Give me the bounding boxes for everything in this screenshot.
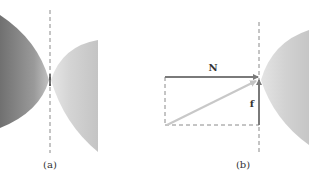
light-body-b: [261, 30, 309, 145]
panel-a: (a): [0, 10, 98, 170]
friction-force-label: f: [250, 98, 255, 109]
contact-force-diagram: (a) N f (b): [0, 0, 309, 183]
dark-body: [0, 15, 49, 128]
normal-force-label: N: [208, 62, 217, 73]
panel-b: N f (b): [165, 22, 309, 170]
resultant-force-arrow: [167, 81, 256, 125]
caption-b: (b): [236, 159, 250, 170]
caption-a: (a): [43, 159, 57, 170]
light-body: [51, 40, 98, 152]
